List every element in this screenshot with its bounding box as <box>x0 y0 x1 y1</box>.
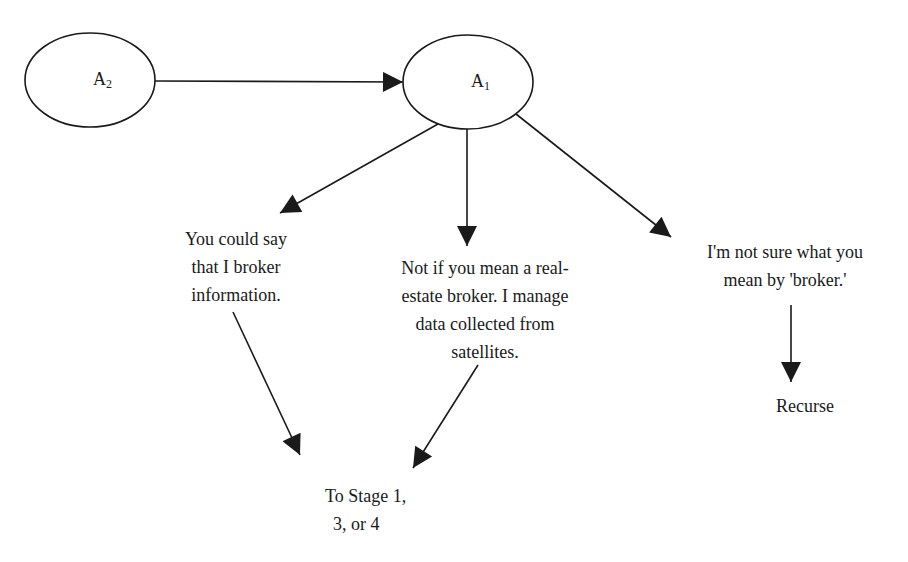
node-a1-letter: A <box>471 71 484 91</box>
middle-response-line: Not if you mean a real- <box>401 254 568 282</box>
arrow-a2-to-a1 <box>155 81 403 82</box>
right-response-text: I'm not sure what you mean by 'broker.' <box>707 238 863 294</box>
left-response-text: You could say that I broker information. <box>185 225 287 309</box>
middle-response-text: Not if you mean a real- estate broker. I… <box>401 254 568 366</box>
node-a2-ellipse <box>25 33 155 127</box>
diagram-canvas: A2 A1 You could say that I broker inform… <box>0 0 908 562</box>
node-a1-ellipse <box>403 35 533 129</box>
node-a2-subscript: 2 <box>106 77 112 91</box>
recurse-label: Recurse <box>776 392 834 420</box>
middle-response-line: estate broker. I manage <box>401 282 568 310</box>
left-response-line: information. <box>185 281 287 309</box>
stage-outcome-line: To Stage 1, <box>325 482 406 510</box>
node-a2-label: A2 <box>93 69 112 89</box>
arrow-a1-to-right-response <box>516 114 671 237</box>
middle-response-line: satellites. <box>401 338 568 366</box>
arrow-left-response-to-stage <box>233 312 300 455</box>
arrow-a1-to-left-response <box>280 124 438 213</box>
recurse-outcome-text: Recurse <box>776 392 834 420</box>
node-a1-label: A1 <box>471 71 490 91</box>
stage-outcome-line: 3, or 4 <box>325 510 406 538</box>
middle-response-line: data collected from <box>401 310 568 338</box>
right-response-line: mean by 'broker.' <box>707 266 863 294</box>
left-response-line: that I broker <box>185 253 287 281</box>
right-response-line: I'm not sure what you <box>707 238 863 266</box>
node-a1-subscript: 1 <box>484 79 490 93</box>
left-response-line: You could say <box>185 225 287 253</box>
node-a2-letter: A <box>93 69 106 89</box>
arrow-middle-response-to-stage <box>413 365 478 468</box>
stage-outcome-text: To Stage 1, 3, or 4 <box>325 482 406 538</box>
